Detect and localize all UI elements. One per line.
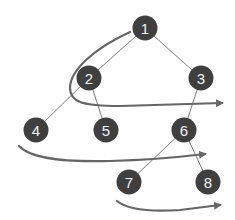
tree-node-2: 2 [77,66,102,91]
tree-node-3: 3 [189,66,214,91]
tree-node-5: 5 [94,118,119,143]
node-label: 1 [141,20,149,37]
tree-node-1: 1 [133,16,158,41]
traversal-arrow-level-4 [117,201,220,211]
node-label: 3 [197,70,205,87]
tree-node-6: 6 [172,118,197,143]
node-label: 7 [125,174,133,191]
node-label: 5 [102,122,110,139]
tree-node-4: 4 [24,118,49,143]
tree-node-7: 7 [117,170,142,195]
node-label: 2 [85,70,93,87]
node-label: 4 [32,122,40,139]
tree-diagram: 1 2 3 4 5 6 7 8 [0,0,235,220]
node-label: 6 [180,122,188,139]
node-label: 8 [204,174,212,191]
traversal-arrow-level-3 [19,146,205,161]
tree-node-8: 8 [196,170,221,195]
